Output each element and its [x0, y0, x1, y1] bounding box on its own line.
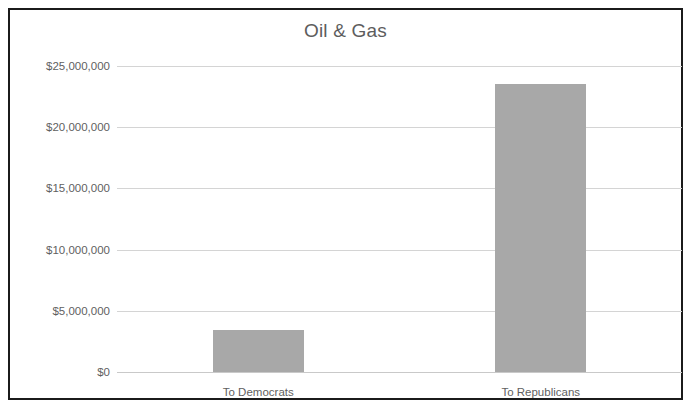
y-axis-tick-labels: $0$5,000,000$10,000,000$15,000,000$20,00…	[10, 66, 110, 372]
plot-area	[117, 66, 682, 372]
x-axis-tick-label: To Republicans	[501, 386, 580, 398]
y-axis-tick-label: $25,000,000	[10, 60, 110, 72]
gridline	[117, 66, 682, 67]
bar-to-democrats	[213, 330, 304, 372]
x-axis-tick-labels: To DemocratsTo Republicans	[117, 378, 682, 402]
chart-frame: Oil & Gas $0$5,000,000$10,000,000$15,000…	[8, 8, 683, 400]
gridline	[117, 372, 682, 373]
chart-page: Oil & Gas $0$5,000,000$10,000,000$15,000…	[0, 0, 690, 411]
bar-to-republicans	[495, 84, 586, 372]
y-axis-tick-label: $15,000,000	[10, 182, 110, 194]
gridline	[117, 127, 682, 128]
y-axis-tick-label: $5,000,000	[10, 305, 110, 317]
y-axis-tick-label: $20,000,000	[10, 121, 110, 133]
gridline	[117, 188, 682, 189]
gridline	[117, 311, 682, 312]
y-axis-tick-label: $10,000,000	[10, 244, 110, 256]
gridline	[117, 250, 682, 251]
y-axis-tick-label: $0	[10, 366, 110, 378]
x-axis-tick-label: To Democrats	[223, 386, 294, 398]
chart-title: Oil & Gas	[10, 20, 681, 42]
